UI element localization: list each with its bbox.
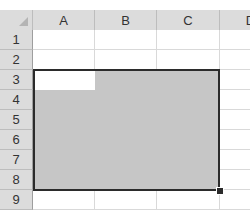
cell-b9[interactable] <box>95 190 157 210</box>
select-all-triangle-icon <box>19 17 28 26</box>
row-header-5[interactable]: 5 <box>0 110 33 130</box>
cell-d1[interactable] <box>220 30 250 50</box>
cell-c1[interactable] <box>157 30 220 50</box>
column-header-b[interactable]: B <box>95 10 157 31</box>
row-header-3[interactable]: 3 <box>0 70 33 90</box>
select-all-button[interactable] <box>0 10 33 31</box>
row-header-1[interactable]: 1 <box>0 30 33 50</box>
cell-d5[interactable] <box>220 110 250 130</box>
cell-b2[interactable] <box>95 50 157 70</box>
spreadsheet-grid: A B C D 1 2 3 4 5 6 7 8 9 <box>0 10 250 219</box>
cell-d3[interactable] <box>220 70 250 90</box>
column-header-d[interactable]: D <box>220 10 250 31</box>
column-header-a[interactable]: A <box>33 10 95 31</box>
cell-d2[interactable] <box>220 50 250 70</box>
cell-d7[interactable] <box>220 150 250 170</box>
selection-border <box>33 69 220 191</box>
cell-d9[interactable] <box>220 190 250 210</box>
cell-d8[interactable] <box>220 170 250 190</box>
row-header-2[interactable]: 2 <box>0 50 33 70</box>
row-header-4[interactable]: 4 <box>0 90 33 110</box>
cell-a2[interactable] <box>33 50 95 70</box>
cell-d4[interactable] <box>220 90 250 110</box>
cell-b1[interactable] <box>95 30 157 50</box>
cell-c9[interactable] <box>157 190 220 210</box>
row-header-6[interactable]: 6 <box>0 130 33 150</box>
row-header-9[interactable]: 9 <box>0 190 33 210</box>
cell-a9[interactable] <box>33 190 95 210</box>
fill-handle[interactable] <box>216 187 224 195</box>
cell-c2[interactable] <box>157 50 220 70</box>
cell-a1[interactable] <box>33 30 95 50</box>
cell-d6[interactable] <box>220 130 250 150</box>
row-header-7[interactable]: 7 <box>0 150 33 170</box>
column-header-c[interactable]: C <box>157 10 220 31</box>
row-header-8[interactable]: 8 <box>0 170 33 190</box>
